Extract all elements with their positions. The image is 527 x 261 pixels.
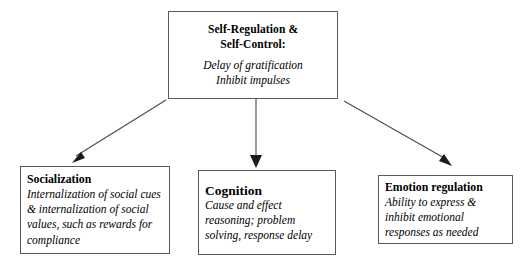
node-socialization-body: Internalization of social cues & interna… bbox=[27, 187, 163, 248]
node-self-regulation-title-line2: Self-Control: bbox=[175, 37, 331, 52]
node-cognition-title: Cognition bbox=[205, 182, 329, 197]
node-socialization-title: Socialization bbox=[27, 172, 163, 187]
node-self-regulation-title: Self-Regulation & Self-Control: bbox=[175, 22, 331, 52]
node-self-regulation[interactable]: Self-Regulation & Self-Control: Delay of… bbox=[168, 11, 338, 99]
node-emotion-regulation-content: Emotion regulation Ability to express & … bbox=[379, 179, 512, 240]
node-emotion-regulation-title: Emotion regulation bbox=[385, 179, 506, 194]
node-self-regulation-content: Self-Regulation & Self-Control: Delay of… bbox=[169, 22, 337, 88]
node-socialization-content: Socialization Internalization of social … bbox=[21, 172, 169, 248]
node-self-regulation-body-line2: Inhibit impulses bbox=[175, 73, 331, 88]
node-self-regulation-body: Delay of gratification Inhibit impulses bbox=[175, 58, 331, 88]
diagram-canvas: Self-Regulation & Self-Control: Delay of… bbox=[0, 0, 527, 261]
node-cognition-body: Cause and effect reasoning; problem solv… bbox=[205, 197, 329, 243]
node-cognition[interactable]: Cognition Cause and effect reasoning; pr… bbox=[198, 170, 336, 255]
node-socialization[interactable]: Socialization Internalization of social … bbox=[20, 166, 170, 254]
edge-root-to-emotion bbox=[344, 101, 452, 166]
node-cognition-content: Cognition Cause and effect reasoning; pr… bbox=[199, 182, 335, 243]
edge-root-to-cognition bbox=[250, 99, 262, 168]
node-self-regulation-title-line1: Self-Regulation & bbox=[175, 22, 331, 37]
edge-root-to-socialization bbox=[72, 100, 166, 163]
node-emotion-regulation-body: Ability to express & inhibit emotional r… bbox=[385, 194, 506, 240]
node-self-regulation-body-line1: Delay of gratification bbox=[175, 58, 331, 73]
node-emotion-regulation[interactable]: Emotion regulation Ability to express & … bbox=[378, 175, 513, 244]
